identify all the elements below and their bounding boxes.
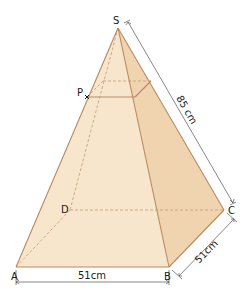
- label-B: B: [164, 271, 171, 282]
- label-A: A: [11, 271, 18, 282]
- label-C: C: [228, 205, 235, 216]
- label-length-SC: 85 cm: [174, 94, 199, 126]
- label-P: P: [77, 87, 83, 98]
- label-length-AB: 51cm: [78, 270, 106, 281]
- label-D: D: [61, 204, 69, 215]
- label-S: S: [113, 15, 119, 26]
- label-length-BC: 51cm: [193, 238, 220, 266]
- pyramid-diagram: S P D C A B 85 cm 51cm 51cm: [0, 0, 247, 298]
